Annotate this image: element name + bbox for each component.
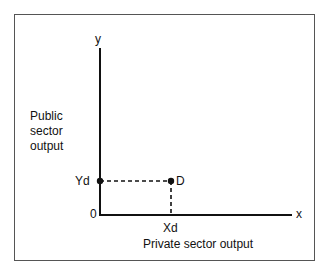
y-axis-label: y <box>95 32 101 46</box>
yd-point <box>97 178 103 184</box>
xd-label: Xd <box>163 221 178 235</box>
x-axis-title: Private sector output <box>143 237 253 251</box>
yd-label: Yd <box>75 174 90 188</box>
origin-label: 0 <box>90 207 97 221</box>
point-d-label: D <box>176 174 185 188</box>
point-d <box>168 178 174 184</box>
x-axis-label: x <box>296 207 302 221</box>
y-axis-title: Public sector output <box>30 109 63 154</box>
